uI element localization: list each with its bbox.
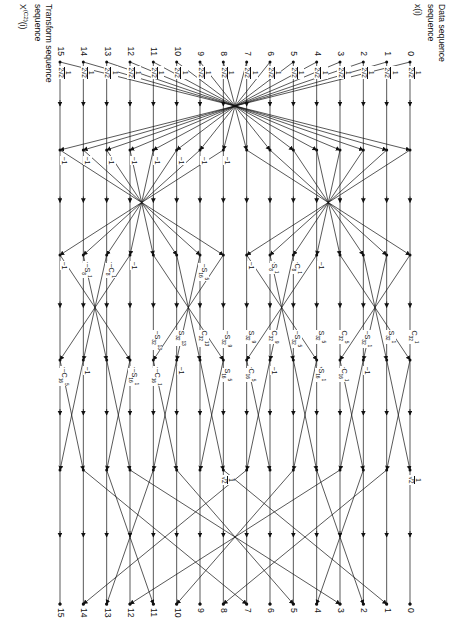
- annotation-s32-9: S329: [245, 330, 256, 344]
- input-index-8: 8: [219, 40, 229, 56]
- annotation-c32-1: C321: [408, 330, 419, 344]
- input-scale-label-7: 12√2: [244, 66, 258, 79]
- input-index-15: 15: [56, 40, 66, 56]
- minus-one-stage1-13: −1: [107, 156, 116, 165]
- input-scale-label-10: 12√2: [174, 66, 188, 79]
- input-index-11: 11: [149, 40, 159, 56]
- half-scale-label-0: 1√2: [407, 475, 421, 485]
- input-index-5: 5: [289, 40, 299, 56]
- coef-c16-5: C165: [245, 368, 256, 382]
- input-index-9: 9: [196, 40, 206, 56]
- input-index-1: 1: [383, 40, 393, 56]
- coef-s8-1: S81: [268, 263, 279, 274]
- minus-one-stage1-12: −1: [130, 156, 139, 165]
- half-scale-label-8: 1√2: [221, 475, 235, 485]
- output-index-0: 0: [406, 608, 416, 622]
- coef-nc16-1: −C161: [152, 368, 163, 386]
- minus-one-stage2-15: −1: [60, 261, 69, 270]
- coef-nc16-5: −C165: [58, 368, 69, 386]
- input-scale-label-14: 12√2: [81, 66, 95, 79]
- input-scale-label-4: 12√2: [314, 66, 328, 79]
- output-index-9: 9: [196, 608, 206, 622]
- output-index-15: 15: [56, 608, 66, 622]
- input-scale-label-11: 12√2: [151, 66, 165, 79]
- coef-s16-5: S165: [222, 368, 233, 382]
- annotation-neg-s32-1: −S321: [362, 330, 373, 348]
- minus-one-stage2-7: −1: [247, 261, 256, 270]
- input-scale-label-13: 12√2: [104, 66, 118, 79]
- output-index-3: 3: [336, 608, 346, 622]
- input-index-6: 6: [266, 40, 276, 56]
- annotation-neg-s32-13: −S3213: [152, 330, 163, 350]
- output-index-12: 12: [126, 608, 136, 622]
- output-index-4: 4: [313, 608, 323, 622]
- input-scale-label-5: 12√2: [291, 66, 305, 79]
- input-scale-label-2: 12√2: [361, 66, 375, 79]
- output-index-5: 5: [289, 608, 299, 622]
- output-index-13: 13: [103, 608, 113, 622]
- input-scale-label-12: 12√2: [127, 66, 141, 79]
- minus-one-stage1-14: −1: [83, 156, 92, 165]
- minus-one-stage3-6: −1: [270, 366, 279, 375]
- output-index-10: 10: [173, 608, 183, 622]
- coef-ns8-1: −S81: [82, 263, 93, 278]
- annotation-neg-s32-5: −S325: [292, 330, 303, 348]
- input-index-0: 0: [406, 40, 416, 56]
- input-index-7: 7: [243, 40, 253, 56]
- annotation-s32-13: S3213: [175, 330, 186, 346]
- input-scale-label-3: 12√2: [337, 66, 351, 79]
- input-index-13: 13: [103, 40, 113, 56]
- minus-one-stage1-8: −1: [223, 156, 232, 165]
- input-index-4: 4: [313, 40, 323, 56]
- minus-one-stage1-11: −1: [153, 156, 162, 165]
- annotation-c32-9: C329: [268, 330, 279, 344]
- coef-nc8-1: −C81: [105, 263, 116, 278]
- annotation-c32-5: C325: [338, 330, 349, 344]
- input-index-12: 12: [126, 40, 136, 56]
- output-index-11: 11: [149, 608, 159, 622]
- coef-ns16-5: −S165: [198, 263, 209, 281]
- minus-one-stage3-2: −1: [363, 366, 372, 375]
- input-index-2: 2: [359, 40, 369, 56]
- input-scale-label-8: 12√2: [221, 66, 235, 79]
- minus-one-stage3-10: −1: [177, 366, 186, 375]
- coef-s16-1: S161: [315, 368, 326, 382]
- annotation-s32-1: S321: [385, 330, 396, 344]
- annotation-s32-5: S325: [315, 330, 326, 344]
- minus-one-stage2-4: −1: [317, 261, 326, 270]
- minus-one-stage2-12: −1: [130, 261, 139, 270]
- coef-c16-1: C161: [338, 368, 349, 382]
- input-index-3: 3: [336, 40, 346, 56]
- input-scale-label-0: 12√2: [407, 66, 421, 79]
- output-index-6: 6: [266, 608, 276, 622]
- input-scale-label-9: 12√2: [197, 66, 211, 79]
- output-index-1: 1: [383, 608, 393, 622]
- output-index-2: 2: [359, 608, 369, 622]
- input-scale-label-6: 12√2: [267, 66, 281, 79]
- annotation-c32-13: C3213: [198, 330, 209, 347]
- input-scale-label-1: 12√2: [384, 66, 398, 79]
- minus-one-stage3-14: −1: [83, 366, 92, 375]
- minus-one-stage1-10: −1: [177, 156, 186, 165]
- coef-c8-1: C81: [292, 263, 303, 274]
- minus-one-stage1-9: −1: [200, 156, 209, 165]
- input-scale-label-15: 12√2: [57, 66, 71, 79]
- input-index-14: 14: [79, 40, 89, 56]
- minus-one-stage1-15: −1: [60, 156, 69, 165]
- input-index-10: 10: [173, 40, 183, 56]
- output-index-8: 8: [219, 608, 229, 622]
- annotation-neg-s32-9: −S329: [222, 330, 233, 348]
- output-index-14: 14: [79, 608, 89, 622]
- coef-ns16-1: −S161: [128, 368, 139, 386]
- output-index-7: 7: [243, 608, 253, 622]
